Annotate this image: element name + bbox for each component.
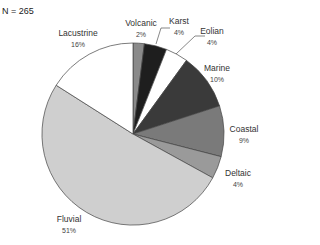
label-karst: Karst4% xyxy=(169,16,189,38)
label-eolian: Eolian4% xyxy=(200,26,224,48)
label-fluvial: Fluvial51% xyxy=(57,214,82,236)
label-marine: Marine10% xyxy=(204,63,230,85)
label-lacustrine: Lacustrine16% xyxy=(58,28,97,50)
label-volcanic: Volcanic2% xyxy=(125,18,157,40)
label-coastal: Coastal9% xyxy=(230,124,259,146)
label-deltaic: Deltaic4% xyxy=(225,168,251,190)
leader-line xyxy=(156,28,170,44)
